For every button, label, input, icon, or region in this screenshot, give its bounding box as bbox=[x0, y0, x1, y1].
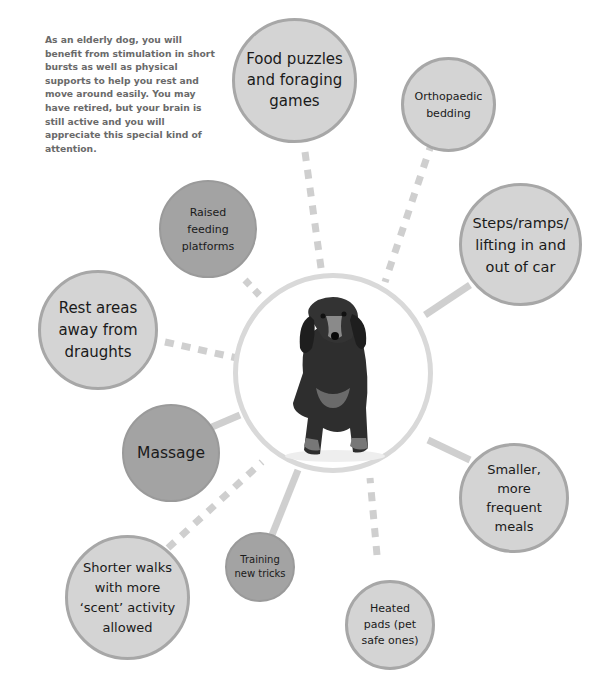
node-label: Smaller, more frequent meals bbox=[474, 460, 554, 536]
connector-orthopaedic-bedding bbox=[385, 142, 432, 282]
node-food-puzzles: Food puzzles and foraging games bbox=[232, 18, 357, 143]
connector-training bbox=[272, 470, 298, 535]
node-label: Steps/ramps/ lifting in and out of car bbox=[471, 212, 571, 278]
connector-steps-ramps bbox=[425, 285, 470, 315]
node-smaller-meals: Smaller, more frequent meals bbox=[459, 443, 569, 553]
node-label: Massage bbox=[137, 443, 205, 463]
node-massage: Massage bbox=[122, 404, 220, 502]
node-label: Shorter walks with more ‘scent’ activity… bbox=[78, 558, 178, 638]
node-raised-feeding: Raised feeding platforms bbox=[159, 180, 257, 278]
node-rest-areas: Rest areas away from draughts bbox=[38, 270, 158, 390]
connector-heated-pads bbox=[370, 478, 377, 555]
node-label: Heated pads (pet safe ones) bbox=[357, 601, 423, 649]
node-heated-pads: Heated pads (pet safe ones) bbox=[345, 580, 435, 670]
node-orthopaedic-bedding: Orthopaedic bedding bbox=[401, 57, 496, 152]
center-photo-frame bbox=[233, 273, 433, 473]
node-shorter-walks: Shorter walks with more ‘scent’ activity… bbox=[65, 535, 190, 660]
dachshund-photo bbox=[238, 278, 428, 468]
node-steps-ramps: Steps/ramps/ lifting in and out of car bbox=[459, 183, 582, 306]
node-label: Raised feeding platforms bbox=[173, 204, 243, 255]
connector-rest-areas bbox=[165, 342, 237, 358]
node-label: Rest areas away from draughts bbox=[53, 297, 143, 363]
node-label: Training new tricks bbox=[233, 553, 287, 581]
node-label: Orthopaedic bedding bbox=[409, 88, 489, 122]
connector-smaller-meals bbox=[428, 440, 470, 460]
node-label: Food puzzles and foraging games bbox=[245, 49, 345, 112]
connector-food-puzzles bbox=[305, 152, 322, 275]
node-training: Training new tricks bbox=[225, 532, 295, 602]
